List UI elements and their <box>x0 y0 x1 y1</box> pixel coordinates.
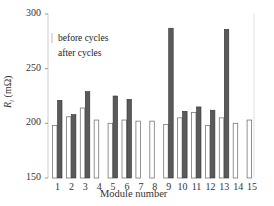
y-tick-label: 250 <box>26 62 41 73</box>
bar-before-cycles <box>66 117 71 178</box>
bar-after-cycles <box>197 107 202 178</box>
y-axis-label: Ri (mΩ) <box>2 76 16 108</box>
y-tick-label: 150 <box>26 171 41 182</box>
x-axis-label: Module number <box>100 188 167 199</box>
bar-after-cycles <box>210 110 215 178</box>
bar-before-cycles <box>136 121 141 178</box>
bar-before-cycles <box>192 112 197 178</box>
bar-before-cycles <box>178 118 183 178</box>
legend-before: before cycles <box>58 31 108 46</box>
legend: before cycles after cycles <box>58 31 108 61</box>
bar-after-cycles <box>183 111 188 178</box>
x-tick-label: 2 <box>69 181 74 192</box>
bar-after-cycles <box>85 92 90 178</box>
y-tick-label: 200 <box>26 116 41 127</box>
x-tick-label: 12 <box>205 181 215 192</box>
bar-after-cycles <box>113 96 118 178</box>
x-tick-label: 1 <box>55 181 60 192</box>
bar-after-cycles <box>127 99 132 178</box>
bar-before-cycles <box>164 124 169 178</box>
x-tick-label: 14 <box>233 181 243 192</box>
bar-before-cycles <box>205 126 210 178</box>
bar-before-cycles <box>108 123 113 178</box>
x-tick-label: 11 <box>192 181 202 192</box>
bar-chart: 123456789101112131415 <box>0 0 274 206</box>
bar-after-cycles <box>58 100 63 178</box>
bar-before-cycles <box>247 120 252 178</box>
x-tick-label: 15 <box>247 181 257 192</box>
bar-before-cycles <box>122 120 127 178</box>
bar-after-cycles <box>169 28 174 178</box>
x-tick-label: 10 <box>178 181 188 192</box>
bar-before-cycles <box>80 108 85 178</box>
bar-before-cycles <box>219 118 224 178</box>
bar-before-cycles <box>150 121 155 178</box>
legend-after: after cycles <box>58 46 108 61</box>
bar-before-cycles <box>233 123 238 178</box>
bar-after-cycles <box>71 115 76 178</box>
bar-before-cycles <box>53 126 58 178</box>
bar-before-cycles <box>94 120 99 178</box>
bar-after-cycles <box>224 29 229 178</box>
x-tick-label: 3 <box>83 181 88 192</box>
x-tick-label: 13 <box>219 181 229 192</box>
y-tick-label: 300 <box>26 7 41 18</box>
